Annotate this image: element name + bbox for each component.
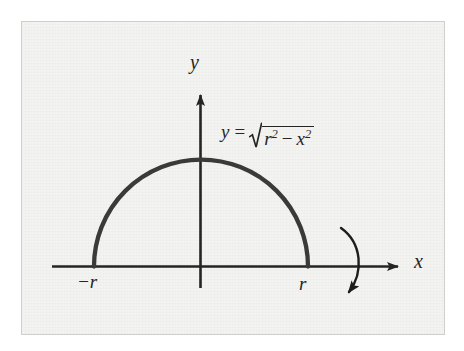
rotation-arrow [341, 228, 359, 292]
figure-container: y x −r r y = r2−x2 [0, 0, 464, 351]
radicand-term-2-base: x [297, 128, 305, 149]
radical-expression: r2−x2 [249, 122, 314, 148]
tick-label-positive-r: r [299, 274, 306, 293]
y-axis-label: y [190, 52, 199, 72]
equation-lhs: y [221, 122, 229, 141]
tick-label-negative-r: −r [77, 272, 97, 291]
equation-label: y = r2−x2 [221, 122, 314, 148]
radicand-term-1-base: r [264, 128, 271, 149]
diagram-canvas [0, 0, 464, 351]
radicand-term-1-exponent: 2 [272, 127, 278, 141]
radicand-operator: − [282, 128, 293, 149]
equation-equals-sign: = [234, 122, 245, 141]
radical-sign-icon [249, 122, 262, 148]
radicand-term-2-exponent: 2 [305, 127, 311, 141]
radicand: r2−x2 [262, 126, 314, 148]
x-axis-label: x [414, 251, 423, 271]
